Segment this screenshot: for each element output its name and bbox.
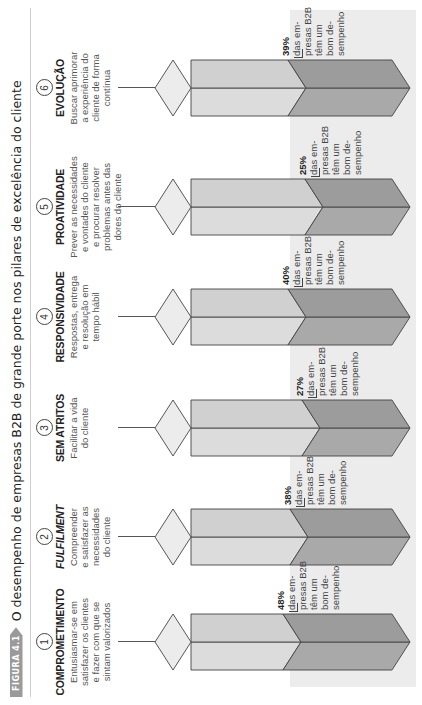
pillar-description: Buscar aprimorara experiência docliente … — [68, 33, 112, 143]
bar-light-face-right — [191, 509, 308, 537]
connector-line — [118, 206, 155, 207]
bar-light-face-right — [191, 614, 301, 642]
pct-value: 27% — [294, 336, 305, 396]
pct-value: 48% — [275, 550, 286, 610]
pillar-title: SEM ATRITOS — [54, 373, 66, 483]
pct-caption: das em-presas B2Btêm umbom de-sempenho — [291, 7, 346, 56]
connector-line — [118, 427, 155, 428]
pct-caption: das em-presas B2Btêm umbom de-sempenho — [293, 456, 348, 505]
pillar-5: 5PROATIVIDADEPrever as necessidadese von… — [36, 152, 123, 262]
pillar-2: 2FULFILMENTCompreendere satisfazer asnec… — [36, 482, 112, 592]
bar-dark-face-right — [290, 509, 410, 537]
bar-cap — [155, 179, 191, 235]
pct-caption: das em-presas B2Btêm umbom de-sempenho — [291, 236, 346, 285]
bar-light-face-left — [191, 88, 306, 116]
pillar-description: Compreendere satisfazer asnecessidadesdo… — [68, 482, 112, 592]
pct-caption: das em-presas B2Btêm umbom de-sempenho — [308, 126, 363, 175]
pillar-number-badge: 6 — [36, 80, 53, 97]
pillar-number-badge: 4 — [36, 309, 53, 326]
bar-dark-face-right — [288, 289, 410, 317]
pillar-4: 4RESPONSIVIDADERespostas, entregae resol… — [36, 262, 101, 372]
pillar-3: 3SEM ATRITOSFacilitar a vidado cliente — [36, 373, 90, 483]
connector-line — [118, 641, 155, 642]
pillar-description: Facilitar a vidado cliente — [68, 373, 90, 483]
connector-line — [118, 87, 155, 88]
bar-light-face-right — [191, 289, 306, 317]
pct-caption: das em-presas B2Btêm umbom de-sempenho — [286, 561, 341, 610]
pillar-description: Prever as necessidadese vontades do clie… — [68, 152, 123, 262]
pillar-number-badge: 1 — [36, 634, 53, 651]
pillar-title: RESPONSIVIDADE — [54, 262, 66, 372]
pct-value: 38% — [282, 445, 293, 505]
pct-label: 27%das em-presas B2Btêm umbom de-sempenh… — [294, 336, 360, 396]
bar-dark-face-right — [283, 614, 410, 642]
bar-light-face-right — [191, 179, 323, 207]
bar-cap — [155, 400, 191, 456]
bar-light-face-left — [191, 317, 306, 345]
bar-dark-face-right — [288, 60, 410, 88]
bar-dark-face-left — [288, 88, 410, 116]
pillar-description: Entusiasmar-se emsatisfazer os clientese… — [68, 587, 112, 697]
pct-label: 38%das em-presas B2Btêm umbom de-sempenh… — [282, 445, 348, 505]
pct-label: 25%das em-presas B2Btêm umbom de-sempenh… — [297, 115, 363, 175]
pillar-title: EVOLUÇÃO — [54, 33, 66, 143]
pct-label: 48%das em-presas B2Btêm umbom de-sempenh… — [275, 550, 341, 610]
bar-cap — [155, 60, 191, 116]
pillar-title: PROATIVIDADE — [54, 152, 66, 262]
bar-dark-face-right — [305, 179, 410, 207]
bar-cap — [155, 289, 191, 345]
pillar-number-badge: 2 — [36, 529, 53, 546]
pillar-number-badge: 3 — [36, 420, 53, 437]
pct-label: 40%das em-presas B2Btêm umbom de-sempenh… — [280, 225, 346, 285]
pillar-number-badge: 5 — [36, 199, 53, 216]
bar-cap — [155, 614, 191, 670]
bar-dark-face-left — [283, 642, 410, 670]
connector-line — [118, 316, 155, 317]
pillar-title: FULFILMENT — [54, 482, 66, 592]
pillar-1: 1COMPROMETIMENTOEntusiasmar-se emsatisfa… — [36, 587, 112, 697]
bar-light-face-right — [191, 60, 306, 88]
pillar-description: Respostas, entregae resolução emtempo há… — [68, 262, 101, 372]
bar-light-face-right — [191, 400, 320, 428]
pct-value: 39% — [280, 0, 291, 56]
bar-light-face-left — [191, 642, 301, 670]
pct-label: 39%das em-presas B2Btêm umbom de-sempenh… — [280, 0, 346, 56]
bar-cap — [155, 509, 191, 565]
connector-line — [118, 536, 155, 537]
pct-value: 25% — [297, 115, 308, 175]
pct-value: 40% — [280, 225, 291, 285]
pct-caption: das em-presas B2Btêm umbom de-sempenho — [305, 347, 360, 396]
pillar-6: 6EVOLUÇÃOBuscar aprimorara experiência d… — [36, 33, 112, 143]
bar-dark-face-right — [302, 400, 410, 428]
figure-stage: FIGURA 4.1 O desempenho de empresas B2B … — [0, 0, 422, 705]
pillar-title: COMPROMETIMENTO — [54, 587, 66, 697]
